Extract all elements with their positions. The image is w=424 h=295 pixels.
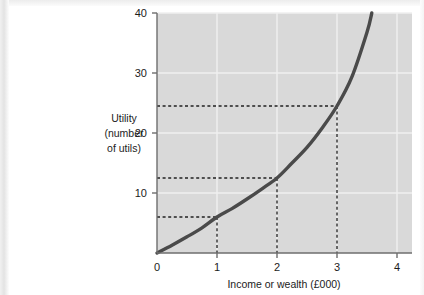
x-tick-label-2: 2 [274, 261, 280, 273]
y-axis-title-line-3: of utils) [107, 142, 141, 154]
y-axis-title-line-1: Utility [111, 112, 137, 124]
y-tick-labels: 10203040 [135, 7, 147, 199]
utility-curve-chart: 01234 10203040 Income or wealth (£000) U… [0, 0, 424, 295]
x-tick-label-3: 3 [334, 261, 340, 273]
x-tick-label-1: 1 [214, 261, 220, 273]
y-axis-title: Utility (number of utils) [104, 112, 144, 154]
x-tick-label-4: 4 [394, 261, 400, 273]
y-axis-title-line-2: (number [104, 127, 144, 139]
x-tick-labels: 01234 [154, 261, 400, 273]
figure-container: 01234 10203040 Income or wealth (£000) U… [0, 0, 424, 295]
y-tick-label-2: 30 [135, 67, 147, 79]
x-tick-label-0: 0 [154, 261, 160, 273]
y-tick-label-0: 10 [135, 187, 147, 199]
x-axis-title: Income or wealth (£000) [227, 278, 340, 290]
y-tick-label-3: 40 [135, 7, 147, 19]
